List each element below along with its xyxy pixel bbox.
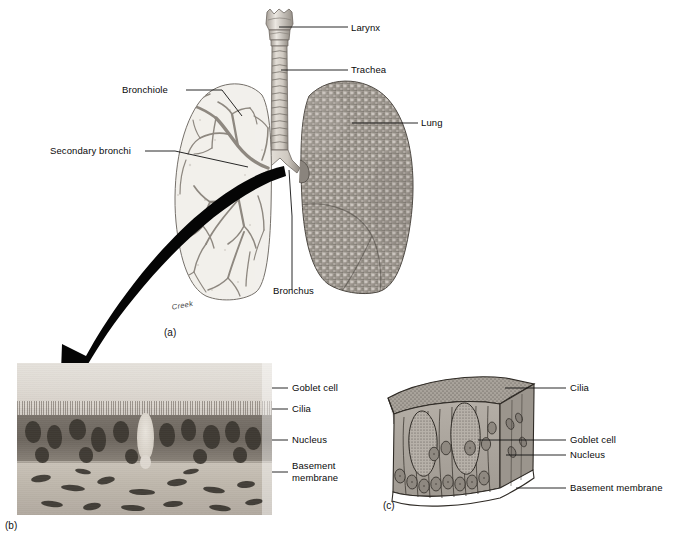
epithelium-block-diagram [388,377,534,506]
label-c-cilia: Cilia [570,382,589,393]
label-bronchus: Bronchus [273,285,314,296]
caption-panel-a: (a) [164,327,176,338]
label-b-cilia: Cilia [292,403,311,414]
caption-panel-b: (b) [5,520,17,531]
label-secondary-bronchi: Secondary bronchi [50,145,131,156]
label-trachea: Trachea [351,64,386,75]
label-c-basement-membrane: Basement membrane [570,482,663,493]
label-b-nucleus: Nucleus [292,434,327,445]
label-larynx: Larynx [351,22,380,33]
right-lung-illustration [292,81,414,294]
caption-panel-c: (c) [383,500,395,511]
left-lung-illustration [175,84,271,300]
label-b-basement-membrane: Basement membrane [292,460,338,483]
label-c-goblet-cell: Goblet cell [570,434,616,445]
figure-canvas: Larynx Trachea Lung Bronchiole Secondary… [0,0,684,538]
label-b-goblet-cell: Goblet cell [292,382,338,393]
label-lung: Lung [421,117,443,128]
respiratory-epithelium-micrograph [17,363,272,515]
label-c-nucleus: Nucleus [570,449,605,460]
label-bronchiole: Bronchiole [122,84,168,95]
larynx-illustration [266,9,293,46]
